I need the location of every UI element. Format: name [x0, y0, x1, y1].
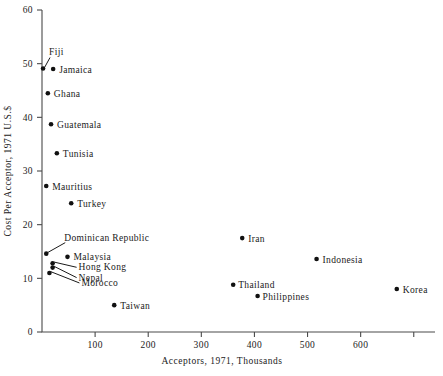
data-point-labels: FijiJamaicaGhanaGuatemalaTunisiaMauritiu… — [49, 47, 428, 310]
data-point-label: Fiji — [49, 47, 64, 57]
data-point-label: Malaysia — [73, 252, 111, 262]
y-tick-label: 50 — [23, 59, 33, 69]
x-tick-label: 300 — [194, 340, 209, 350]
data-point-label: Thailand — [238, 280, 275, 290]
data-point — [231, 282, 236, 287]
data-point-label: Indonesia — [323, 255, 364, 265]
data-point — [65, 255, 70, 260]
data-point — [112, 303, 117, 308]
scatter-plot-figure: 1002003004005006000102030405060 FijiJama… — [0, 0, 443, 376]
data-point — [240, 236, 245, 241]
data-point — [49, 122, 54, 127]
leader-line — [45, 57, 50, 67]
data-point — [50, 265, 55, 270]
y-tick-label: 0 — [28, 327, 33, 337]
data-point — [55, 151, 60, 156]
axis-tick-labels: 1002003004005006000102030405060 — [23, 5, 369, 350]
data-point-label: Mauritius — [52, 182, 92, 192]
data-point-label: Philippines — [263, 292, 310, 302]
data-point — [394, 287, 399, 292]
data-point-label: Jamaica — [59, 65, 92, 75]
x-axis-title: Acceptors, 1971, Thousands — [161, 356, 282, 366]
data-point — [314, 257, 319, 262]
data-point-label: Dominican Republic — [64, 233, 149, 243]
data-point — [44, 184, 49, 189]
data-point-label: Guatemala — [57, 120, 102, 130]
plot-canvas: 1002003004005006000102030405060 FijiJama… — [0, 0, 443, 376]
data-point-label: Korea — [403, 285, 428, 295]
y-tick-label: 30 — [23, 166, 33, 176]
data-point-label: Hong Kong — [79, 262, 127, 272]
x-tick-label: 200 — [140, 340, 155, 350]
data-point-label: Ghana — [54, 89, 81, 99]
data-point — [47, 271, 52, 276]
data-point-label: Turkey — [77, 199, 106, 209]
x-tick-label: 600 — [353, 340, 368, 350]
y-tick-label: 20 — [23, 220, 33, 230]
y-tick-label: 60 — [23, 5, 33, 15]
y-axis-title: Cost Per Acceptor, 1971 U.S.$ — [3, 105, 13, 236]
x-tick-label: 500 — [300, 340, 315, 350]
data-point-label: Morocco — [81, 278, 118, 288]
leader-line — [54, 262, 76, 267]
data-point-label: Taiwan — [120, 301, 150, 311]
data-point-label: Tunisia — [63, 149, 94, 159]
data-point — [41, 66, 46, 71]
x-tick-label: 400 — [247, 340, 262, 350]
y-tick-label: 40 — [23, 113, 33, 123]
data-point — [51, 67, 56, 72]
data-point — [255, 294, 260, 299]
leader-line — [54, 266, 76, 277]
x-tick-label: 100 — [87, 340, 102, 350]
leader-line — [48, 243, 65, 253]
data-point — [69, 201, 74, 206]
data-point-label: Iran — [248, 234, 265, 244]
data-point — [46, 91, 51, 96]
y-tick-label: 10 — [23, 274, 33, 284]
data-point — [44, 251, 49, 256]
data-point — [50, 261, 55, 266]
